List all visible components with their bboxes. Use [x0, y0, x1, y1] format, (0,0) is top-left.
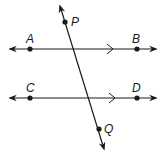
label-c: C	[26, 81, 35, 95]
label-p: P	[71, 15, 79, 29]
label-q: Q	[104, 122, 113, 136]
label-d: D	[132, 81, 141, 95]
diagram-canvas: P A B C D Q	[0, 0, 165, 154]
label-a: A	[25, 32, 34, 46]
point-p: P	[62, 15, 79, 29]
label-b: B	[132, 32, 140, 46]
